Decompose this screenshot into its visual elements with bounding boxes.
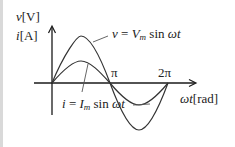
x-var: ωt: [180, 91, 193, 106]
voltage-leader-line: [93, 36, 108, 42]
eq-sin: sin: [146, 26, 168, 41]
x-unit: [rad]: [193, 91, 218, 106]
tick-label-pi: π: [111, 66, 118, 79]
x-axis-label: ωt[rad]: [180, 92, 218, 105]
voltage-equation: v = Vm sin ωt: [112, 27, 181, 42]
eq-sin: sin: [90, 96, 112, 111]
eq-omega-t: ωt: [112, 96, 125, 111]
current-leader-line: [82, 64, 88, 92]
eq-Vm: V: [132, 26, 140, 41]
eq-omega-t: ωt: [168, 26, 181, 41]
eq-equals: =: [118, 26, 132, 41]
y-axis-label-current: i[A]: [16, 29, 38, 42]
eq-equals: =: [66, 96, 80, 111]
i-unit: [A]: [20, 28, 38, 43]
y-axis-label-voltage: v[V]: [16, 10, 40, 23]
v-unit: [V]: [22, 9, 40, 24]
tick-label-2pi: 2π: [158, 66, 171, 79]
current-equation: i = Im sin ωt: [62, 97, 125, 112]
